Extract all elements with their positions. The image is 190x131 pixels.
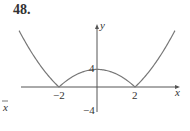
- x-axis-label: x: [174, 86, 180, 98]
- tick-label-2: 2: [132, 89, 138, 101]
- tick-label-neg4: −4: [83, 104, 95, 116]
- y-axis-label: y: [99, 19, 105, 31]
- stray-x-label: x: [2, 101, 8, 113]
- tick-label-neg2: −2: [53, 89, 65, 101]
- y-axis-arrow-icon: [95, 24, 99, 29]
- graph: x y −2 2 4 −4 x: [0, 0, 190, 131]
- tick-label-4: 4: [89, 62, 95, 74]
